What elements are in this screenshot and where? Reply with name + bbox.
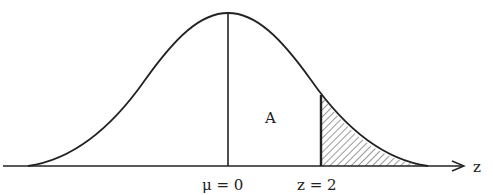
z-value-label: z = 2	[297, 176, 337, 194]
normal-curve-diagram: A μ = 0 z = 2 z	[0, 0, 493, 195]
mean-label: μ = 0	[202, 176, 243, 194]
axis-label: z	[473, 158, 481, 176]
shaded-tail-region	[321, 95, 428, 166]
region-a-label: A	[264, 109, 276, 127]
